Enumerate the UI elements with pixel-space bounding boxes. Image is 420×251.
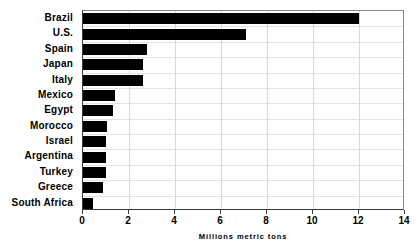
bar [83, 29, 246, 40]
x-axis-tick-mark [82, 210, 83, 214]
bar [83, 121, 107, 132]
bar-row [83, 42, 403, 57]
bar [83, 105, 113, 116]
bar [83, 13, 359, 24]
x-axis-title: Millions metric tons [82, 232, 404, 241]
category-label: Japan [0, 56, 78, 71]
bar-row [83, 180, 403, 195]
x-axis-tick-mark [266, 210, 267, 214]
bar [83, 90, 115, 101]
bar-row [83, 26, 403, 41]
x-axis-tick-label: 2 [125, 215, 131, 226]
category-label: Morocco [0, 118, 78, 133]
bar-row [83, 73, 403, 88]
x-axis-tick-mark [358, 210, 359, 214]
bar-row [83, 149, 403, 164]
x-axis-tick-label: 6 [217, 215, 223, 226]
bar-row [83, 103, 403, 118]
category-label: U.S. [0, 25, 78, 40]
x-axis-tick-mark [220, 210, 221, 214]
x-axis-tick-mark [404, 210, 405, 214]
category-label: Mexico [0, 87, 78, 102]
plot-area [82, 10, 404, 210]
bar-row [83, 11, 403, 26]
x-axis-tick-mark [312, 210, 313, 214]
bar [83, 182, 103, 193]
x-axis-tick-label: 0 [79, 215, 85, 226]
bar-row [83, 88, 403, 103]
category-label: Israel [0, 133, 78, 148]
x-axis-tick-label: 10 [306, 215, 317, 226]
bar-row [83, 119, 403, 134]
bar-chart: BrazilU.S.SpainJapanItalyMexicoEgyptMoro… [0, 0, 420, 251]
x-axis-tick-mark [128, 210, 129, 214]
bar-row [83, 134, 403, 149]
category-label: Argentina [0, 148, 78, 163]
category-label: Turkey [0, 164, 78, 179]
category-label: South Africa [0, 195, 78, 210]
bar-series [83, 11, 403, 209]
bar [83, 44, 147, 55]
bar-row [83, 165, 403, 180]
category-label: Greece [0, 179, 78, 194]
x-axis-tick-label: 14 [398, 215, 409, 226]
bar [83, 152, 106, 163]
bar-row [83, 196, 403, 211]
category-label: Egypt [0, 102, 78, 117]
bar [83, 59, 143, 70]
category-label: Spain [0, 41, 78, 56]
x-axis-tick-label: 12 [352, 215, 363, 226]
bar [83, 167, 106, 178]
x-axis-tick-label: 4 [171, 215, 177, 226]
bar-row [83, 57, 403, 72]
category-label: Italy [0, 72, 78, 87]
bar [83, 198, 93, 209]
x-axis-tick-label: 8 [263, 215, 269, 226]
category-label-column: BrazilU.S.SpainJapanItalyMexicoEgyptMoro… [0, 10, 78, 210]
category-label: Brazil [0, 10, 78, 25]
x-axis-tick-mark [174, 210, 175, 214]
bar [83, 136, 106, 147]
bar [83, 75, 143, 86]
